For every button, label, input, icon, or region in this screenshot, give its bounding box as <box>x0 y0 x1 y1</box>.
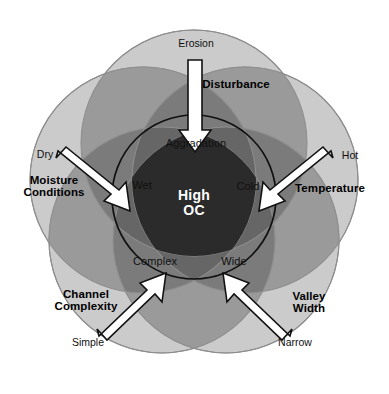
venn-diagram-canvas <box>0 0 389 394</box>
venn-diagram-figure: Aggradation Wet Cold Complex Wide High O… <box>0 0 389 394</box>
